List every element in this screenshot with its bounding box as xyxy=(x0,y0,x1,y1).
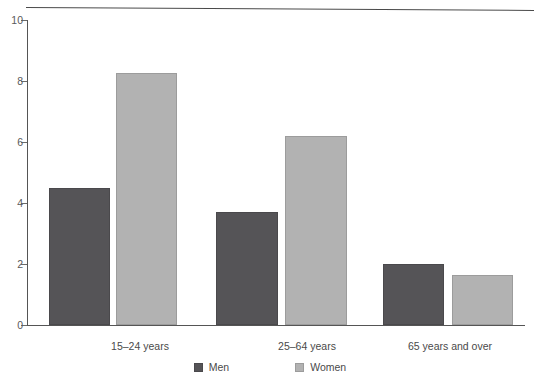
plot-area: 10 8 6 4 2 0 xyxy=(27,20,525,325)
top-divider-rule xyxy=(26,7,534,11)
y-tick-label-10: 10 xyxy=(11,15,23,26)
bar-women-65-over xyxy=(452,275,513,325)
y-tick-label-8: 8 xyxy=(17,76,23,87)
y-tick-label-0: 0 xyxy=(17,320,23,331)
legend-label-women: Women xyxy=(310,362,346,373)
y-axis-line xyxy=(27,20,28,325)
bar-men-25-64 xyxy=(216,212,278,325)
legend-item-men: Men xyxy=(194,362,229,373)
x-axis-label-65-over: 65 years and over xyxy=(408,341,492,352)
bar-women-15-24 xyxy=(116,73,177,325)
legend-swatch-men-icon xyxy=(194,363,203,372)
legend-swatch-women-icon xyxy=(295,363,304,372)
bar-men-65-over xyxy=(383,264,444,325)
chart-legend: Men Women xyxy=(0,362,540,373)
bar-women-25-64 xyxy=(285,136,347,325)
legend-item-women: Women xyxy=(295,362,346,373)
bar-men-15-24 xyxy=(49,188,110,325)
legend-label-men: Men xyxy=(209,362,229,373)
x-axis-line xyxy=(27,325,525,326)
x-axis-label-15-24: 15–24 years xyxy=(111,341,169,352)
y-tick-label-2: 2 xyxy=(17,259,23,270)
x-axis-label-25-64: 25–64 years xyxy=(278,341,336,352)
y-tick-label-4: 4 xyxy=(17,198,23,209)
chart-figure: 10 8 6 4 2 0 15–24 years xyxy=(0,0,540,381)
y-tick-label-6: 6 xyxy=(17,137,23,148)
